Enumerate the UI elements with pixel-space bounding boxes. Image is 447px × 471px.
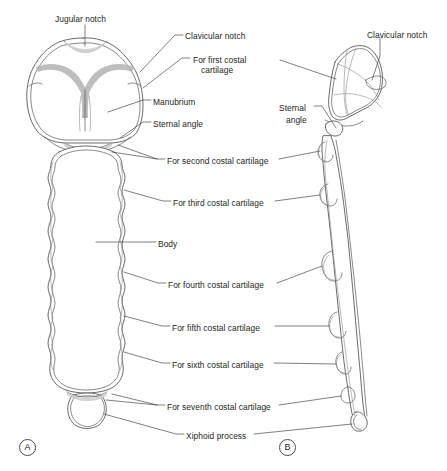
anterior-sternum-group <box>27 38 143 429</box>
label-seventh-costal: For seventh costal cartilage <box>167 402 271 412</box>
label-clavicular-notch-a: Clavicular notch <box>185 31 245 41</box>
label-sternal-angle-b-l1: Sternal <box>279 103 306 113</box>
leader-sixth-costal-b <box>274 363 336 364</box>
leader-seventh-costal-b <box>279 396 341 405</box>
leader-clavicular-notch-a <box>140 35 183 72</box>
leader-xiphoid-left <box>104 414 184 434</box>
leader-first-costal-b <box>280 60 336 79</box>
leader-seventh-costal-l2 <box>106 400 157 405</box>
label-third-costal: For third costal cartilage <box>173 198 264 208</box>
label-second-costal: For second costal cartilage <box>167 156 268 166</box>
label-xiphoid-process: Xiphoid process <box>186 431 246 441</box>
leader-second-costal-b <box>279 151 320 159</box>
leader-third-costal-left <box>124 190 171 201</box>
panel-letter-a: A <box>19 439 36 456</box>
label-manubrium: Manubrium <box>153 97 195 107</box>
label-sixth-costal: For sixth costal cartilage <box>172 360 264 370</box>
sternum-body-outline <box>48 146 125 393</box>
lateral-body-outline <box>322 136 366 425</box>
label-first-costal-line2: cartilage <box>201 65 233 75</box>
sternum-anatomy-figure: .ol { fill:#ffffff; stroke:#595959; stro… <box>0 0 447 471</box>
leader-fourth-costal-b <box>277 266 322 283</box>
label-body: Body <box>158 239 177 249</box>
leader-third-costal-b <box>275 195 320 201</box>
leader-first-costal-a <box>143 58 190 88</box>
lateral-sternum-group <box>318 46 386 432</box>
lateral-sternal-angle-notch <box>325 121 342 136</box>
label-jugular-notch: Jugular notch <box>55 14 106 24</box>
lateral-manubrium-outline <box>329 46 383 120</box>
costal-notch-5-shade <box>330 316 339 337</box>
label-sternal-angle-a: Sternal angle <box>153 119 203 129</box>
leader-sixth-costal-left <box>124 352 170 363</box>
label-fifth-costal: For fifth costal cartilage <box>172 323 260 333</box>
label-fourth-costal: For fourth costal cartilage <box>168 280 264 290</box>
leader-fifth-costal-left <box>124 316 170 326</box>
label-clavicular-notch-b: Clavicular notch <box>367 30 427 40</box>
leader-fourth-costal-left <box>124 272 166 283</box>
label-first-costal-line1: For first costal <box>193 55 246 65</box>
label-sternal-angle-b-l2: angle <box>286 115 307 125</box>
leader-xiphoid-b <box>254 424 352 434</box>
panel-letter-b: B <box>279 439 296 456</box>
